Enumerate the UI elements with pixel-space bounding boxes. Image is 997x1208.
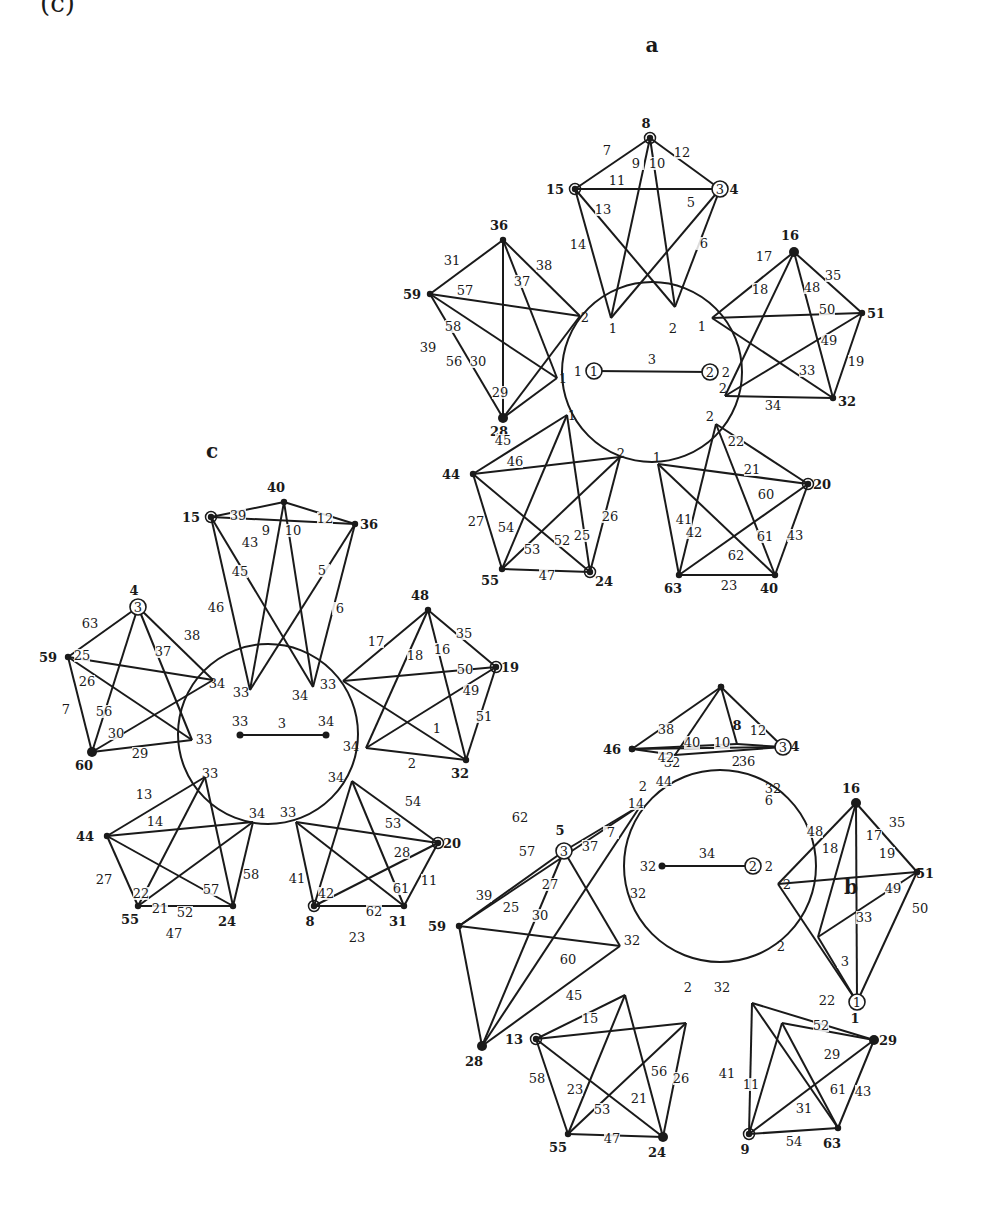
attachment-label: 2 (669, 321, 677, 336)
edge-label: 45 (232, 564, 249, 579)
graph-node (281, 499, 287, 505)
node-label: 9 (740, 1142, 749, 1157)
node-label: 8 (641, 116, 650, 131)
graph-node (435, 840, 441, 846)
edge-label: 57 (203, 882, 220, 897)
graph-node (772, 572, 778, 578)
edge-label: 26 (673, 1071, 690, 1086)
graph-node (659, 863, 666, 870)
graph-title: a (646, 33, 659, 57)
pentagon-k5 (778, 800, 920, 1005)
graph-node (830, 395, 836, 401)
edge-label: 39 (476, 888, 493, 903)
edge-label: 51 (476, 709, 493, 724)
graph-edge (459, 926, 620, 946)
attachment-label: 32 (624, 933, 641, 948)
edge-label: 5 (687, 195, 695, 210)
attachment-label: 2 (777, 939, 785, 954)
edge-label: 13 (595, 202, 612, 217)
graph-edge (856, 803, 857, 1002)
graph-node (533, 1036, 539, 1042)
edge-label: 57 (457, 283, 474, 298)
attachment-label: 1 (698, 319, 706, 334)
attachment-label: 2 (684, 980, 692, 995)
edge-label: 47 (539, 568, 556, 583)
node-label: 55 (549, 1140, 567, 1155)
edge-label: 53 (385, 816, 402, 831)
node-label: 4 (790, 739, 799, 754)
graph-node (493, 664, 499, 670)
graph-node (498, 413, 508, 423)
edge-label: 2 (408, 756, 416, 771)
edge-label: 45 (495, 433, 512, 448)
edge-label: 25 (574, 528, 591, 543)
graph-node (230, 903, 236, 909)
edge-label: 29 (132, 746, 149, 761)
node-label: 48 (411, 588, 429, 603)
node-label: 1 (850, 1011, 859, 1026)
graph-edge (716, 424, 808, 484)
edge-label: 22 (133, 886, 150, 901)
graph-node (565, 1131, 571, 1137)
edge-label: 27 (468, 514, 485, 529)
node-label: 24 (595, 574, 613, 589)
edge-label: 50 (457, 662, 474, 677)
edge-label: 38 (536, 258, 553, 273)
edge-label: 34 (765, 398, 782, 413)
graph-edge (536, 1039, 568, 1134)
edge-label: 7 (603, 143, 611, 158)
attachment-label: 33 (320, 677, 337, 692)
graph-node (401, 903, 407, 909)
edge-label: 43 (242, 535, 259, 550)
attachment-label: 1 (609, 321, 617, 336)
node-label: 8 (305, 914, 314, 929)
edge-label: 63 (82, 616, 99, 631)
edge-label: 42 (318, 886, 335, 901)
edge-label: 52 (554, 533, 571, 548)
graph-node (500, 237, 506, 243)
node-label: 13 (505, 1032, 523, 1047)
graph-edge (564, 805, 641, 851)
edge-label: 11 (609, 173, 626, 188)
edge-label: 21 (631, 1091, 648, 1106)
node-label: 28 (465, 1054, 483, 1069)
edge-label: 58 (243, 867, 260, 882)
edge-label: 52 (177, 905, 194, 920)
graph-node (65, 654, 71, 660)
edge-label: 62 (512, 810, 529, 825)
node-label: 20 (813, 477, 831, 492)
attachment-label: 2 (617, 446, 625, 461)
circled-node-number: 3 (134, 600, 142, 615)
edge-label: 10 (285, 523, 302, 538)
attachment-label: 1 (653, 450, 661, 465)
circled-node-number: 2 (749, 859, 757, 874)
edge-label: 48 (807, 824, 824, 839)
graph-node (323, 732, 330, 739)
graph-edge (567, 415, 590, 572)
graph-node (859, 310, 865, 316)
graph-edge (749, 1003, 752, 1134)
center-node-label: 32 (640, 859, 657, 874)
edge-label: 39 (420, 340, 437, 355)
node-label: 24 (648, 1145, 666, 1160)
graph-edge (430, 294, 580, 316)
edge-label: 53 (594, 1102, 611, 1117)
graph-edge (536, 1039, 663, 1137)
edge-label: 18 (822, 841, 839, 856)
edge-label: 47 (166, 926, 183, 941)
graph-node (718, 684, 724, 690)
edge-label: 29 (824, 1047, 841, 1062)
edge-label: 37 (514, 274, 531, 289)
center-node-label: 33 (232, 714, 249, 729)
edge-label: 23 (349, 930, 366, 945)
graph-node (676, 572, 682, 578)
edge-label: 6 (336, 601, 344, 616)
edge-label: 18 (407, 648, 424, 663)
edge-label: 37 (155, 644, 172, 659)
edge-label: 5 (318, 563, 326, 578)
graph-node (237, 732, 244, 739)
edge-label: 12 (317, 511, 334, 526)
attachment-label: 2 (719, 381, 727, 396)
node-label: 36 (360, 517, 378, 532)
edge-label: 27 (96, 872, 113, 887)
